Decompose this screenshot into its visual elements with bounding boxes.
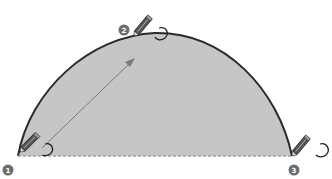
arc-fill bbox=[18, 33, 292, 156]
svg-text:2: 2 bbox=[122, 27, 127, 35]
step-badge-3: 3 bbox=[289, 165, 300, 176]
step-badge-1: 1 bbox=[3, 165, 14, 176]
svg-text:3: 3 bbox=[292, 167, 297, 175]
arc-diagram: 1 2 3 bbox=[0, 0, 332, 179]
pencil-icon bbox=[290, 135, 311, 158]
step-badge-2: 2 bbox=[119, 25, 130, 36]
click-curl-icon bbox=[316, 144, 328, 157]
svg-text:1: 1 bbox=[6, 167, 11, 175]
